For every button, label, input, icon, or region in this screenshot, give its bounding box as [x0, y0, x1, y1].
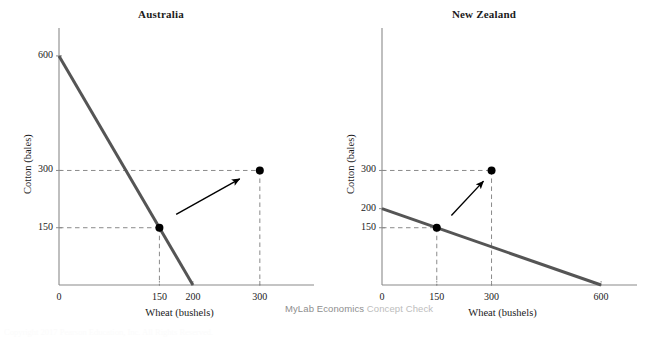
data-point-marker [433, 224, 441, 232]
x-axis-title-australia: Wheat (bushels) [59, 307, 300, 318]
footer-ghost-text: Copyright 2017 Pearson Education, Inc. A… [4, 327, 564, 337]
chart-panel-new-zealand: New Zealand 0150300600150200300 Wheat (b… [323, 0, 645, 340]
x-tick-label: 200 [173, 291, 213, 302]
y-tick-label: 150 [15, 221, 53, 232]
trade-gain-arrow [451, 181, 483, 215]
data-point-marker [155, 224, 163, 232]
y-axis-title-australia: Cotton (bales) [22, 134, 33, 194]
x-tick-label: 0 [39, 291, 79, 302]
chart-panel-australia: Australia 0150200300150300600 Wheat (bus… [0, 0, 322, 340]
figure-root: Australia 0150200300150300600 Wheat (bus… [0, 0, 645, 340]
watermark-strong-text: MyLab Economics [285, 303, 364, 314]
data-points-australia [155, 166, 263, 231]
watermark-light-text: Concept Check [364, 303, 433, 314]
x-tick-label: 0 [362, 291, 402, 302]
x-tick-label: 150 [417, 291, 457, 302]
gains-from-trade-arrow-australia [176, 179, 240, 215]
y-tick-label: 600 [15, 49, 53, 60]
data-point-marker [256, 166, 264, 174]
x-tick-label: 300 [472, 291, 512, 302]
y-tick-label: 300 [15, 163, 53, 174]
axes-new-zealand [379, 28, 637, 286]
y-axis-title-new-zealand: Cotton (bales) [345, 134, 356, 194]
mylab-watermark: MyLab Economics Concept Check [285, 303, 433, 314]
data-points-new-zealand [433, 166, 496, 231]
data-point-marker [488, 166, 496, 174]
trade-gain-arrow [176, 179, 240, 215]
axes-australia [56, 28, 314, 286]
x-tick-label: 600 [581, 291, 621, 302]
x-tick-label: 300 [240, 291, 280, 302]
y-tick-label: 300 [338, 163, 376, 174]
gains-from-trade-arrow-new-zealand [451, 181, 483, 215]
y-tick-label: 150 [338, 221, 376, 232]
y-tick-label: 200 [338, 202, 376, 213]
